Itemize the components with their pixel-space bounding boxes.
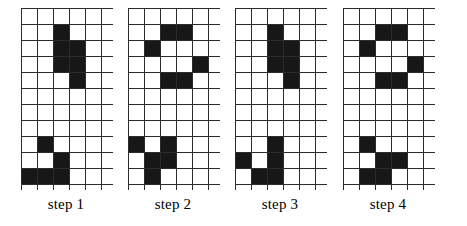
grid-cell-empty (193, 153, 208, 168)
grid-cell-empty (252, 57, 267, 72)
grid-cell-empty (86, 169, 101, 184)
grid-cell-empty (22, 73, 37, 88)
grid-cell-empty (284, 153, 299, 168)
grid-cell-filled (161, 73, 176, 88)
grid-cell-filled (54, 41, 69, 56)
grid-cell-filled (145, 153, 160, 168)
grid-cell-filled (268, 169, 283, 184)
grid-cell-empty (392, 121, 407, 136)
grid-cell-empty (22, 41, 37, 56)
grid-cell-empty (54, 121, 69, 136)
grid-cell-empty (161, 41, 176, 56)
grid-cell-filled (360, 169, 375, 184)
grid-cell-empty (316, 169, 331, 184)
grid-cell-empty (70, 105, 85, 120)
grid-cell-empty (300, 73, 315, 88)
step-label: step 2 (125, 196, 221, 213)
grid-cell-empty (300, 169, 315, 184)
grid-cell-empty (145, 89, 160, 104)
grid-cell-empty (236, 57, 251, 72)
grid-cell-empty (193, 121, 208, 136)
grid-cell-empty (376, 105, 391, 120)
grid-cell-empty (236, 89, 251, 104)
grid-cell-empty (22, 153, 37, 168)
grid-cell-empty (54, 9, 69, 24)
grid-cell-empty (284, 121, 299, 136)
grid-cell-empty (193, 9, 208, 24)
grid-cell-empty (193, 137, 208, 152)
grid-cell-empty (177, 9, 192, 24)
grid-cell-empty (252, 137, 267, 152)
grid-cell-empty (300, 9, 315, 24)
grid-cell-empty (268, 89, 283, 104)
grid-cell-empty (408, 73, 423, 88)
grid-cell-empty (424, 9, 439, 24)
grid-cell-empty (129, 105, 144, 120)
grid-cell-empty (236, 73, 251, 88)
grid-cell-empty (408, 105, 423, 120)
grid-cell-empty (236, 41, 251, 56)
grid-cell-empty (344, 105, 359, 120)
grid-cell-empty (38, 89, 53, 104)
grid-cell-empty (236, 137, 251, 152)
grid-cell-empty (344, 9, 359, 24)
grid-cell-empty (252, 41, 267, 56)
grid-cell-empty (38, 105, 53, 120)
grid-cell-empty (344, 25, 359, 40)
grid-cell-empty (252, 9, 267, 24)
grid-cell-empty (316, 57, 331, 72)
grid-cell-empty (408, 121, 423, 136)
grid-cell-empty (252, 121, 267, 136)
grid-cell-empty (70, 153, 85, 168)
grid-cell-empty (300, 89, 315, 104)
grid-cell-empty (300, 105, 315, 120)
grid-cell-empty (193, 73, 208, 88)
grid-cell-empty (86, 41, 101, 56)
grid-cell-empty (102, 105, 117, 120)
grid-cell-empty (209, 169, 224, 184)
grid-cell-filled (376, 153, 391, 168)
grid-cell-filled (284, 41, 299, 56)
grid-cell-filled (161, 153, 176, 168)
grid-cell-empty (102, 169, 117, 184)
grid-cell-empty (424, 105, 439, 120)
grid-cell-empty (268, 121, 283, 136)
grid-cell-empty (300, 121, 315, 136)
grid-cell-empty (177, 153, 192, 168)
grid-cell-empty (70, 121, 85, 136)
grid-cell-empty (22, 137, 37, 152)
grid-cell-empty (145, 121, 160, 136)
grid-cell-empty (268, 105, 283, 120)
grid-cell-filled (38, 137, 53, 152)
step-panel: step 4 (340, 0, 447, 226)
grid-cell-empty (236, 169, 251, 184)
grid-cell-empty (424, 137, 439, 152)
grid-cell-filled (145, 169, 160, 184)
grid-cell-empty (284, 25, 299, 40)
grid-cell-filled (129, 137, 144, 152)
grid-cell-empty (316, 89, 331, 104)
grid-cell-empty (284, 89, 299, 104)
grid-cell-filled (392, 25, 407, 40)
grid-cell-filled (54, 153, 69, 168)
grid-cell-empty (177, 57, 192, 72)
grid-cell-filled (408, 57, 423, 72)
grid-cell-empty (161, 9, 176, 24)
grid-cell-filled (193, 57, 208, 72)
step-panel: step 1 (18, 0, 125, 226)
grid-cell-empty (424, 25, 439, 40)
grid-cell-empty (86, 89, 101, 104)
step-grid (343, 8, 435, 190)
grid-cell-empty (408, 137, 423, 152)
grid-cell-filled (268, 25, 283, 40)
step-grid (235, 8, 327, 190)
grid-cell-empty (161, 57, 176, 72)
step-grid (21, 8, 113, 190)
step-sequence-figure: step 1step 2step 3step 4 (0, 0, 467, 226)
grid-cell-empty (344, 121, 359, 136)
step-panel: step 3 (232, 0, 339, 226)
grid-cell-empty (424, 153, 439, 168)
grid-cell-empty (408, 41, 423, 56)
grid-cell-filled (38, 169, 53, 184)
grid-cell-empty (376, 137, 391, 152)
